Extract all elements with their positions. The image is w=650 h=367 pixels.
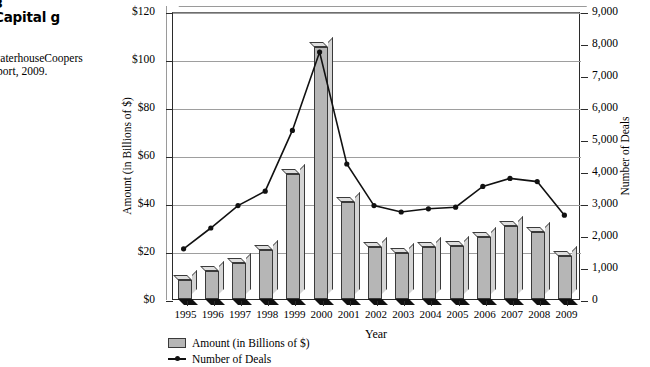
y-axis-tick-label-right: 1,000 (592, 262, 650, 274)
y-axis-tick-right (581, 77, 588, 78)
x-axis-tick (323, 301, 324, 306)
line-marker (344, 161, 349, 166)
y-axis-tick-right (581, 13, 588, 14)
x-axis-tick (241, 301, 242, 306)
legend-item-amount: Amount (in Billions of $) (168, 336, 310, 349)
x-axis-tick (404, 301, 405, 306)
legend-item-deals: Number of Deals (168, 352, 310, 365)
x-axis-tick (214, 301, 215, 306)
x-axis-tick (486, 301, 487, 306)
line-marker (235, 203, 240, 208)
line-marker (480, 184, 485, 189)
legend-bar-swatch-icon (168, 338, 186, 348)
y-axis-tick-right (581, 301, 588, 302)
y-axis-tick-label-right: 0 (592, 294, 650, 306)
line-marker (371, 203, 376, 208)
x-axis-tick (268, 301, 269, 306)
y-axis-tick-label-left: $120 (97, 6, 155, 18)
x-axis-tick-label: 2009 (546, 309, 586, 320)
y-axis-tick-right (581, 45, 588, 46)
y-axis-tick-right (581, 173, 588, 174)
y-axis-tick-right (581, 269, 588, 270)
y-axis-tick-label-right: 7,000 (592, 70, 650, 82)
y-axis-tick-right (581, 141, 588, 142)
x-axis-tick (459, 301, 460, 306)
legend-item-deals-label: Number of Deals (192, 353, 271, 365)
line-marker (562, 213, 567, 218)
y-axis-tick-right (581, 205, 588, 206)
y-axis-tick-label-right: 8,000 (592, 38, 650, 50)
line-series-number-of-deals (172, 12, 580, 300)
line-path (184, 52, 565, 249)
y-axis-label-right: Number of Deals (616, 12, 634, 300)
line-marker (535, 179, 540, 184)
line-marker (181, 246, 186, 251)
chart: Amount (in Billions of $) Number of Deal… (0, 0, 650, 367)
x-axis-tick (431, 301, 432, 306)
line-marker (507, 176, 512, 181)
y-axis-label-right-text: Number of Deals (619, 116, 631, 195)
y-axis-tick-label-left: $100 (97, 54, 155, 66)
y-axis-tick-label-right: 6,000 (592, 102, 650, 114)
line-marker (263, 189, 268, 194)
legend-line-marker-icon (168, 354, 186, 364)
y-axis-tick-right (581, 237, 588, 238)
x-axis-tick (513, 301, 514, 306)
y-axis-tick-left (166, 301, 173, 302)
legend-item-amount-label: Amount (in Billions of $) (192, 337, 310, 349)
line-marker (208, 225, 213, 230)
x-axis-tick (567, 301, 568, 306)
x-axis-tick (350, 301, 351, 306)
y-axis-tick-label-right: 4,000 (592, 166, 650, 178)
y-axis-tick-label-right: 3,000 (592, 198, 650, 210)
y-axis-tick-label-left: $40 (97, 198, 155, 210)
x-axis-tick (295, 301, 296, 306)
x-axis-tick (187, 301, 188, 306)
line-marker (399, 209, 404, 214)
line-marker (317, 49, 322, 54)
y-axis-tick-label-right: 5,000 (592, 134, 650, 146)
y-axis-tick-label-right: 9,000 (592, 6, 650, 18)
y-axis-tick-label-left: $0 (97, 294, 155, 306)
y-axis-tick-label-left: $60 (97, 150, 155, 162)
x-axis-tick (540, 301, 541, 306)
x-axis-tick (377, 301, 378, 306)
line-marker (453, 205, 458, 210)
line-marker (290, 128, 295, 133)
chart-legend: Amount (in Billions of $) Number of Deal… (168, 336, 310, 367)
y-axis-tick-right (581, 109, 588, 110)
line-marker (426, 206, 431, 211)
y-axis-tick-label-left: $20 (97, 246, 155, 258)
y-axis-tick-label-left: $80 (97, 102, 155, 114)
y-axis-tick-label-right: 2,000 (592, 230, 650, 242)
